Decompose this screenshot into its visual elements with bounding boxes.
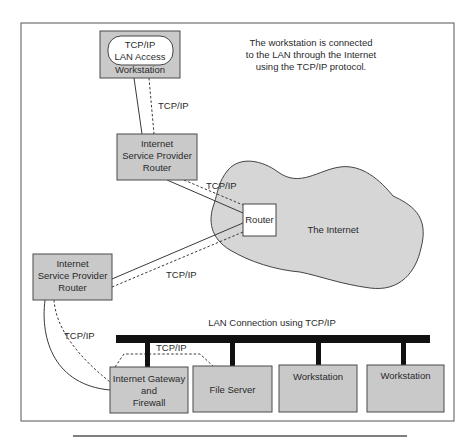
file-server-label: File Server [210,384,256,395]
isp-router-1-line-1: Internet [141,138,174,149]
isp-router-1: Internet Service Provider Router [117,134,197,180]
isp-router-1-line-2: Service Provider [122,150,192,161]
file-server: File Server [193,366,272,412]
isp-router-2-line-2: Service Provider [38,270,108,281]
network-diagram: The workstation is connected to the LAN … [0,0,476,445]
link-isp2-gateway-solid [44,300,110,390]
internet-cloud-label: The Internet [307,224,359,235]
internet-router: Router [243,204,276,236]
link-ws-isp1-solid [134,78,142,134]
caption: The workstation is connected to the LAN … [246,37,377,72]
gateway-line-2: and [141,385,157,396]
remote-workstation-label: Workstation [115,64,165,75]
link-label-router-isp2: TCP/IP [166,269,197,280]
link-gateway-fileserver-dashed [115,354,214,367]
link-isp2-gateway-dashed [54,300,110,382]
internet-gateway-firewall: Internet Gateway and Firewall [110,367,188,413]
isp-router-1-line-3: Router [143,162,172,173]
isp-router-2: Internet Service Provider Router [33,254,112,300]
link-ws-isp1-dashed [149,78,154,134]
gateway-line-1: Internet Gateway [113,373,186,384]
internet-router-label: Router [245,214,274,225]
oval-line-1: TCP/IP [125,39,156,50]
caption-line-2: to the LAN through the Internet [246,49,377,60]
caption-line-3: using the TCP/IP protocol. [256,61,367,72]
oval-line-2: LAN Access [114,51,165,62]
lan-workstation-2: Workstation [367,365,444,412]
lan-workstation-2-label: Workstation [381,370,431,381]
remote-workstation: TCP/IP LAN Access Workstation [100,31,180,78]
lan-drop-gateway [145,343,150,367]
lan-workstation-1: Workstation [279,365,357,412]
lan-label: LAN Connection using TCP/IP [208,317,336,328]
caption-line-1: The workstation is connected [249,37,372,48]
link-label-isp1-router: TCP/IP [206,180,237,191]
link-label-isp2-gateway: TCP/IP [64,330,95,341]
link-label-gateway-fileserver: TCP/IP [156,342,187,353]
lan-drop-workstation-1 [316,343,321,365]
isp-router-2-line-1: Internet [56,258,89,269]
lan-drop-workstation-2 [401,343,406,365]
lan-workstation-1-label: Workstation [293,371,343,382]
lan-bus [116,335,430,343]
link-label-ws-isp1: TCP/IP [158,100,189,111]
lan-drop-fileserver [230,343,235,367]
gateway-line-3: Firewall [133,397,166,408]
isp-router-2-line-3: Router [58,282,87,293]
